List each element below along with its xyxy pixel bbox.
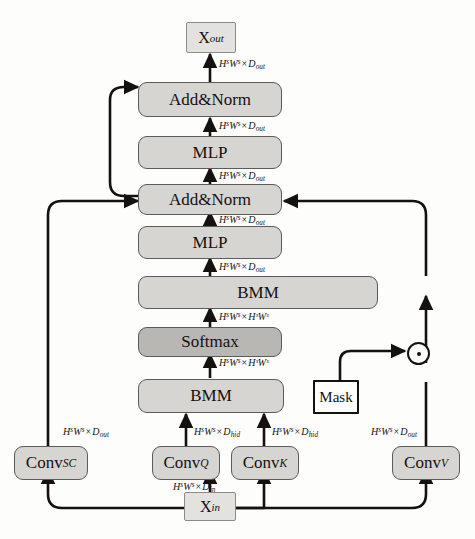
dim-conv-k-out: HsWs×Dhid — [272, 426, 318, 439]
dim-add-norm-top-in: HsWs×Dout — [219, 120, 265, 133]
mlp-mid-label: MLP — [193, 233, 228, 253]
add-norm-top-label: Add&Norm — [169, 90, 251, 110]
softmax-label: Softmax — [181, 332, 239, 352]
mlp-top-label: MLP — [193, 143, 228, 163]
node-bmm-lower: BMM — [138, 379, 284, 413]
x-out-label: X — [198, 29, 210, 47]
dim-softmax-in: HsWs×HˢWˢ — [219, 357, 269, 368]
node-add-norm-mid: Add&Norm — [138, 184, 282, 215]
dim-mlp-mid-in: HsWs×Dout — [219, 261, 265, 274]
dim-x-in-out: HsWs×Din — [173, 481, 215, 494]
conv-v-sub: V — [441, 457, 448, 470]
node-conv-v: ConvV — [392, 446, 460, 480]
conv-v-label: Conv — [404, 453, 441, 473]
dim-conv-q-out: HsWs×Dhid — [194, 426, 240, 439]
node-add-norm-top: Add&Norm — [138, 82, 282, 117]
bmm-upper-label: BMM — [237, 283, 279, 303]
node-softmax: Softmax — [138, 327, 282, 357]
node-mlp-top: MLP — [138, 136, 282, 169]
node-conv-sc: ConvSC — [14, 446, 88, 480]
mask-label: Mask — [319, 389, 352, 406]
node-bmm-upper: BMM — [138, 276, 378, 309]
conv-q-label: Conv — [163, 453, 200, 473]
x-out-sub: out — [210, 32, 224, 44]
bmm-lower-label: BMM — [190, 386, 232, 406]
dim-add-norm-mid-in: HsWs×Dout — [219, 214, 265, 227]
dim-conv-v-out: HsWs×Dout — [371, 426, 417, 439]
dim-conv-sc-out: HsWs×Dout — [63, 426, 109, 439]
dim-mlp-top-in: HsWs×Dout — [219, 170, 265, 183]
conv-sc-label: Conv — [26, 453, 63, 473]
node-conv-q: ConvQ — [152, 446, 220, 480]
conv-sc-sub: SC — [63, 457, 76, 470]
node-conv-k: ConvK — [231, 446, 299, 480]
add-norm-mid-label: Add&Norm — [169, 190, 251, 210]
node-x-out: Xout — [186, 22, 236, 53]
dim-bmm-upper-in: HsWs×HˢWˢ — [219, 311, 269, 322]
conv-k-sub: K — [280, 457, 288, 470]
node-x-in: Xin — [184, 492, 236, 521]
x-in-label: X — [200, 498, 212, 516]
elementwise-multiply-icon — [407, 342, 430, 365]
x-in-sub: in — [212, 501, 220, 513]
node-mlp-mid: MLP — [138, 226, 282, 259]
architecture-diagram: Xout Add&Norm MLP Add&Norm MLP BMM Softm… — [0, 0, 475, 539]
dim-out-top: HsWs×Dout — [219, 58, 265, 71]
conv-q-sub: Q — [200, 457, 208, 470]
conv-k-label: Conv — [243, 453, 280, 473]
node-mask: Mask — [313, 380, 359, 414]
